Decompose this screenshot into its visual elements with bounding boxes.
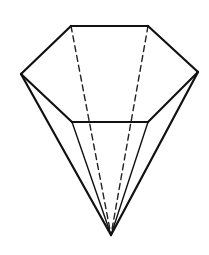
edge-bottom_right-apex xyxy=(111,122,148,235)
edge-right-apex xyxy=(111,72,198,235)
edge-top_right-right xyxy=(148,26,198,72)
hidden-edges xyxy=(71,26,148,235)
edge-bottom_left-left xyxy=(21,74,72,122)
solid-edges xyxy=(21,26,198,235)
edge-left-top_left xyxy=(21,26,71,74)
hidden-edge-top_right-apex xyxy=(111,26,148,235)
thin-edges xyxy=(72,122,148,235)
edge-bottom_left-apex xyxy=(72,122,111,235)
edge-left-apex xyxy=(21,74,111,235)
hexagonal-pyramid-diagram xyxy=(0,0,209,255)
edge-right-bottom_right xyxy=(148,72,198,122)
hidden-edge-top_left-apex xyxy=(71,26,111,235)
